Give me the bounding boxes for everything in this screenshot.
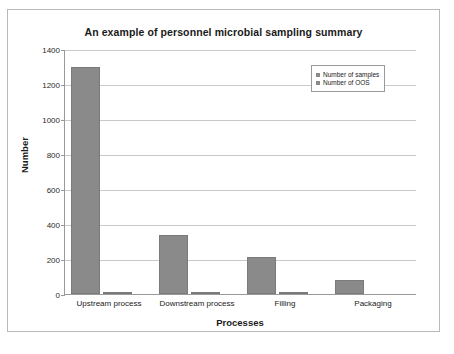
bar-group	[65, 50, 153, 294]
x-tick-label: Filling	[241, 299, 329, 308]
x-axis-title: Processes	[64, 317, 416, 328]
y-tick-label: 400	[47, 221, 60, 230]
y-tick-label: 0	[56, 291, 60, 300]
chart-legend: Number of samplesNumber of OOS	[311, 65, 385, 92]
legend-label: Number of samples	[323, 71, 379, 78]
y-tick-label: 600	[47, 186, 60, 195]
y-tick-label: 1200	[42, 81, 60, 90]
x-tick-label: Packaging	[329, 299, 417, 308]
legend-item[interactable]: Number of samples	[316, 71, 379, 78]
y-tick-label: 1400	[42, 46, 60, 55]
legend-label: Number of OOS	[323, 79, 370, 86]
legend-item[interactable]: Number of OOS	[316, 79, 379, 86]
bar[interactable]	[159, 235, 188, 295]
bar[interactable]	[279, 292, 308, 294]
bar[interactable]	[71, 67, 100, 295]
x-tick-label: Downstream process	[153, 299, 241, 308]
chart-title: An example of personnel microbial sampli…	[8, 26, 439, 38]
y-tick-mark	[61, 295, 65, 296]
bar[interactable]	[103, 292, 132, 294]
bar-group	[153, 50, 241, 294]
y-tick-label: 1000	[42, 116, 60, 125]
bar[interactable]	[247, 257, 276, 294]
y-tick-label: 200	[47, 256, 60, 265]
bar[interactable]	[335, 280, 364, 294]
legend-swatch-icon	[316, 81, 320, 85]
y-axis-title: Number	[19, 137, 30, 173]
chart-frame: An example of personnel microbial sampli…	[7, 9, 440, 332]
bar[interactable]	[191, 292, 220, 294]
legend-swatch-icon	[316, 73, 320, 77]
x-tick-label: Upstream process	[65, 299, 153, 308]
y-tick-label: 800	[47, 151, 60, 160]
